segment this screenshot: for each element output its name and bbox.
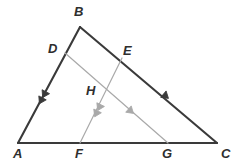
point-label-E: E <box>123 44 132 57</box>
arrow-mark-icon <box>36 90 50 106</box>
point-label-F: F <box>75 147 83 160</box>
point-label-D: D <box>48 42 57 55</box>
segment-DG <box>65 53 168 143</box>
point-label-G: G <box>162 147 172 160</box>
point-label-A: A <box>13 147 22 160</box>
point-label-B: B <box>74 5 83 18</box>
geometry-figure: A B C D E F G H <box>0 0 238 167</box>
geometry-canvas <box>0 0 238 167</box>
arrowhead-icon <box>36 96 47 106</box>
direction-arrow-marks <box>36 90 171 119</box>
point-label-H: H <box>86 84 95 97</box>
segment-EF <box>80 58 122 143</box>
cevian-segments <box>65 53 168 143</box>
point-label-C: C <box>221 147 230 160</box>
